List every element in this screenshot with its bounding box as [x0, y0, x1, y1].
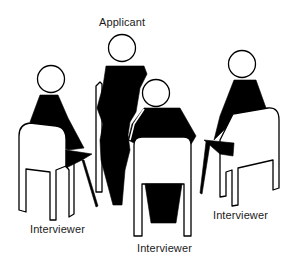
applicant-label: Applicant: [99, 16, 145, 28]
interviewer-left-label: Interviewer: [30, 223, 85, 235]
interviewer-right-leg-icon: [200, 142, 210, 194]
interviewer-right-figure: [200, 51, 279, 207]
interviewer-right-chair-back-icon: [220, 108, 279, 206]
interviewer-left-head-icon: [38, 66, 65, 93]
interviewer-right-label: Interviewer: [213, 209, 268, 221]
interviewer-center-legs-icon: [145, 184, 182, 223]
interviewer-center-figure: [128, 80, 196, 237]
interviewer-left-figure: [19, 66, 98, 221]
interviewer-right-head-icon: [229, 51, 256, 78]
interviewer-center-label: Interviewer: [137, 242, 192, 254]
interviewer-left-chair-leg-icon: [66, 162, 74, 217]
interviewer-left-lap-icon: [66, 150, 92, 168]
interviewer-center-head-icon: [143, 80, 170, 107]
applicant-head-icon: [109, 35, 136, 62]
interviewer-left-chair-back-icon: [19, 123, 66, 220]
